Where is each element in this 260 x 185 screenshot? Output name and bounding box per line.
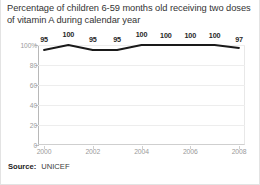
data-label-2008: 97 [224, 35, 254, 44]
chart-title: Percentage of children 6-59 months old r… [7, 3, 255, 26]
chart-screenshot: Percentage of children 6-59 months old r… [0, 0, 260, 185]
source-note: Source:UNICEF [8, 162, 70, 171]
series-line [1, 26, 260, 156]
source-label: Source: [8, 162, 36, 171]
chart-plot-region: 100% 80 60 40 20 0 2000 2002 2004 2006 2… [1, 26, 260, 156]
source-value: UNICEF [41, 162, 69, 171]
